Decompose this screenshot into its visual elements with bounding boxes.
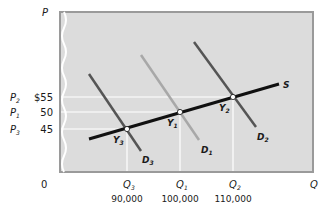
y-axis-label: P [42,7,49,18]
equilibrium-point-y1 [177,109,182,114]
svg-text:45: 45 [40,124,53,135]
svg-text:90,000: 90,000 [111,194,143,204]
svg-text:Q2: Q2 [229,179,241,191]
svg-text:Q1: Q1 [176,179,188,191]
price-label-p1: P1 50 [10,107,53,119]
quantity-label-q2: Q2 110,000 [214,179,251,204]
svg-text:P2: P2 [10,92,20,104]
equilibrium-point-y3 [124,126,129,131]
supply-demand-diagram: P Q 0 P2 $55 P1 50 P3 45 Q3 90,000 Q1 10… [0,0,322,207]
quantity-label-q1: Q1 100,000 [161,179,198,204]
svg-text:P3: P3 [10,124,20,136]
plot-area [60,12,313,172]
price-label-p2: P2 $55 [10,92,53,104]
quantity-label-q3: Q3 90,000 [111,179,143,204]
svg-text:100,000: 100,000 [161,194,198,204]
svg-text:110,000: 110,000 [214,194,251,204]
equilibrium-point-y2 [230,94,235,99]
svg-text:50: 50 [40,107,53,118]
svg-text:$55: $55 [34,92,53,103]
supply-label: S [283,80,289,90]
svg-text:P1: P1 [10,107,20,119]
price-label-p3: P3 45 [10,124,53,136]
origin-label: 0 [41,179,47,190]
x-axis-label: Q [310,179,318,190]
svg-text:Q3: Q3 [123,179,135,191]
